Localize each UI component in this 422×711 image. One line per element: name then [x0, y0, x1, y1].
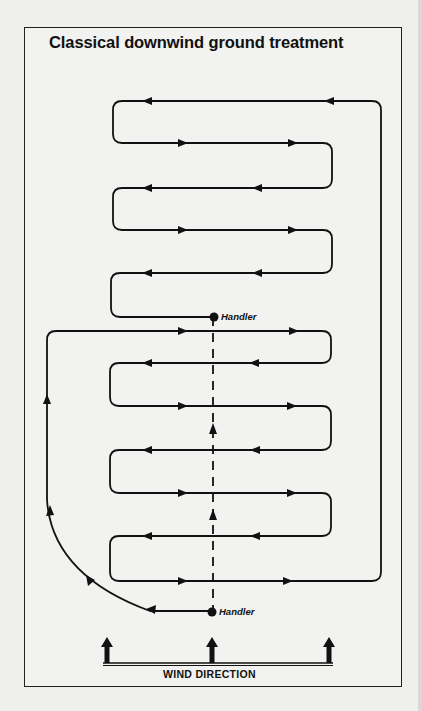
wind-direction-label: WIND DIRECTION: [163, 668, 256, 680]
arrow-right-icon: [283, 577, 293, 585]
arrow-right-icon: [287, 489, 297, 497]
arrow-left-icon: [142, 269, 152, 277]
route-diagram: [0, 0, 422, 711]
arrow-up-icon: [209, 423, 217, 434]
arrow-left-icon: [142, 184, 152, 192]
arrow-left-icon: [249, 359, 259, 367]
handler-walk-line: [209, 317, 217, 611]
arrow-right-icon: [288, 226, 298, 234]
arrow-up-left-icon: [86, 575, 95, 586]
arrow-left-icon: [252, 269, 262, 277]
arrow-left-icon: [250, 446, 260, 454]
arrow-up-icon: [209, 509, 217, 520]
handler-label-lower: Handler: [219, 606, 254, 617]
arrow-right-icon: [178, 402, 188, 410]
arrow-right-icon: [178, 327, 188, 335]
arrow-left-icon: [146, 605, 156, 614]
wind-arrow-icon: [323, 637, 335, 663]
arrow-left-icon: [252, 184, 262, 192]
arrow-right-icon: [289, 327, 299, 335]
arrow-right-icon: [178, 489, 188, 497]
wind-direction-indicator: [101, 637, 335, 666]
arrow-left-icon: [250, 532, 260, 540]
arrow-right-icon: [287, 402, 297, 410]
handler-dot-upper: [210, 313, 219, 322]
arrow-up-icon: [43, 394, 51, 404]
arrow-right-icon: [178, 577, 188, 585]
arrow-right-icon: [178, 139, 188, 147]
handler-dot-lower: [208, 608, 217, 617]
wind-arrow-icon: [206, 637, 218, 663]
arrow-right-icon: [288, 139, 298, 147]
arrow-left-icon: [142, 97, 152, 105]
arrow-left-icon: [324, 97, 334, 105]
wind-arrow-icon: [101, 637, 113, 663]
arrow-left-icon: [142, 446, 152, 454]
arrow-left-icon: [142, 532, 152, 540]
arrow-left-icon: [142, 359, 152, 367]
sweep-route: [47, 101, 381, 611]
arrow-right-icon: [178, 226, 188, 234]
handler-label-upper: Handler: [221, 311, 256, 322]
